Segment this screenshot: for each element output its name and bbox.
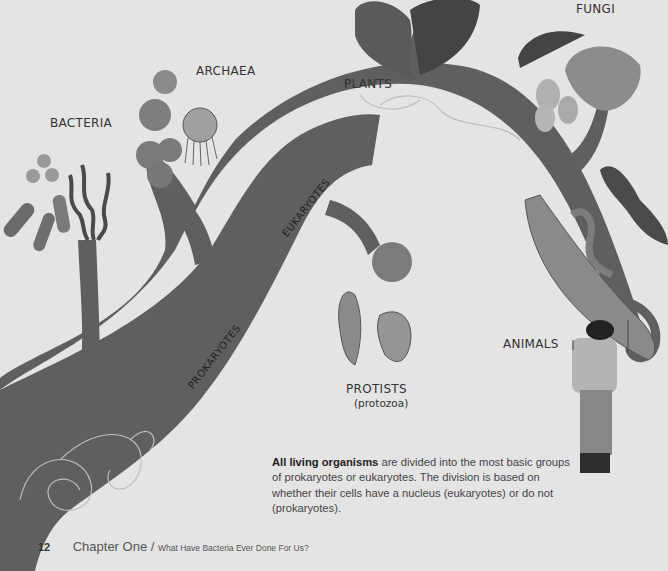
mushrooms (518, 31, 641, 132)
label-bacteria: BACTERIA (50, 116, 112, 130)
label-plants: PLANTS (344, 77, 392, 91)
label-fungi: FUNGI (576, 2, 615, 16)
book-title: What Have Bacteria Ever Done For Us? (158, 543, 309, 553)
label-archaea: ARCHAEA (196, 64, 255, 78)
caption-bold: All living organisms (272, 456, 378, 468)
page-number: 12 (38, 541, 50, 553)
figure-caption: All living organisms are divided into th… (272, 455, 572, 516)
label-protists: PROTISTS (346, 382, 407, 396)
protist-cells (339, 242, 412, 365)
bacteria-cells (1, 154, 109, 253)
label-animals: ANIMALS (503, 337, 559, 351)
book-page: BACTERIA ARCHAEA PLANTS FUNGI ANIMALS PR… (0, 0, 668, 571)
label-protists-sub: (protozoa) (354, 397, 408, 409)
page-footer: 12 Chapter One / What Have Bacteria Ever… (38, 537, 309, 555)
protists-branch (325, 200, 380, 255)
moth (600, 166, 668, 245)
chapter-title: Chapter One (73, 539, 147, 554)
archaea-cells (136, 70, 217, 188)
footer-separator: / (147, 539, 158, 554)
